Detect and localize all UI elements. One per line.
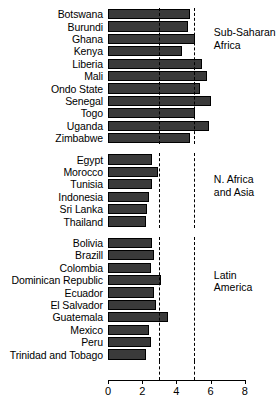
- chart-group-panel: BoliviaBrazillColombiaDominican Republic…: [0, 237, 278, 361]
- bar: [108, 167, 158, 177]
- bar: [108, 46, 182, 56]
- reference-line: [159, 153, 160, 227]
- bar-chart: BotswanaBurundiGhanaKenyaLiberiaMaliOndo…: [0, 0, 278, 405]
- axis-tick: [108, 380, 109, 384]
- bar-category-label: Morocco: [63, 166, 103, 177]
- bar-plot-area: [108, 120, 245, 132]
- bar-plot-area: [108, 249, 245, 261]
- group-annotation-line-2: and Asia: [214, 186, 254, 199]
- axis-tick-label: 2: [139, 385, 145, 397]
- group-annotation-label: LatinAmerica: [214, 269, 253, 294]
- chart-bar-row: Mali: [0, 70, 278, 82]
- bar-category-label: Bolivia: [73, 237, 103, 248]
- chart-bar-row: Bolivia: [0, 237, 278, 249]
- reference-line: [159, 361, 160, 380]
- bar: [108, 34, 195, 44]
- chart-bar-row: Sri Lanka: [0, 203, 278, 215]
- bar: [108, 349, 146, 359]
- bar-category-label: Uganda: [67, 120, 103, 131]
- axis-tick: [211, 380, 212, 384]
- axis-tick: [176, 380, 177, 384]
- bar-plot-area: [108, 237, 245, 249]
- bar-category-label: Botswana: [58, 9, 103, 20]
- bar-plot-area: [108, 299, 245, 311]
- chart-bar-row: Botswana: [0, 8, 278, 20]
- group-annotation-label: Sub-SaharanAfrica: [214, 26, 276, 51]
- bar-category-label: Guatemala: [53, 312, 103, 323]
- reference-line: [159, 237, 160, 361]
- chart-bar-row: Uganda: [0, 120, 278, 132]
- bar: [108, 337, 151, 347]
- chart-bar-row: Togo: [0, 107, 278, 119]
- reference-line: [194, 153, 195, 227]
- bar: [108, 179, 152, 189]
- bar-category-label: Mexico: [70, 324, 103, 335]
- bar-plot-area: [108, 348, 245, 360]
- bar: [108, 9, 190, 19]
- chart-bar-row: Brazill: [0, 249, 278, 261]
- bar-category-label: Kenya: [74, 46, 103, 57]
- bar-category-label: Ecuador: [65, 287, 103, 298]
- bar: [108, 154, 152, 164]
- axis-tick-label: 0: [105, 385, 111, 397]
- bar-category-label: Ghana: [72, 33, 103, 44]
- bar-category-label: Burundi: [68, 21, 104, 32]
- axis-tick-label: 4: [173, 385, 179, 397]
- bar: [108, 83, 200, 93]
- chart-bar-row: Guatemala: [0, 311, 278, 323]
- reference-line: [194, 361, 195, 380]
- chart-bar-row: Egypt: [0, 153, 278, 165]
- bar-category-label: El Salvador: [50, 299, 103, 310]
- bar: [108, 300, 156, 310]
- group-annotation-line-1: Latin: [214, 269, 253, 282]
- bar-category-label: Brazill: [75, 250, 103, 261]
- chart-bar-row: El Salvador: [0, 299, 278, 311]
- bar-plot-area: [108, 203, 245, 215]
- axis-tick-label: 8: [242, 385, 248, 397]
- chart-bar-row: Thailand: [0, 215, 278, 227]
- bar-category-label: Zimbabwe: [55, 133, 103, 144]
- chart-bar-row: Senegal: [0, 95, 278, 107]
- reference-line: [194, 8, 195, 144]
- bar-plot-area: [108, 336, 245, 348]
- bar-category-label: Egypt: [77, 154, 103, 165]
- bar-category-label: Sri Lanka: [60, 204, 103, 215]
- bar: [108, 71, 207, 81]
- bar-category-label: Liberia: [72, 58, 103, 69]
- bar-plot-area: [108, 8, 245, 20]
- bar: [108, 238, 152, 248]
- group-annotation-line-1: N. Africa: [214, 173, 254, 186]
- bar: [108, 108, 195, 118]
- group-annotation-label: N. Africaand Asia: [214, 173, 254, 198]
- bar-category-label: Trinidad and Tobago: [10, 349, 103, 360]
- group-annotation-line-2: Africa: [214, 39, 276, 52]
- bar-category-label: Mali: [84, 71, 103, 82]
- bar: [108, 263, 151, 273]
- bar-category-label: Togo: [81, 108, 103, 119]
- bar-plot-area: [108, 82, 245, 94]
- bar: [108, 287, 154, 297]
- group-annotation-line-2: America: [214, 281, 253, 294]
- bar-category-label: Indonesia: [58, 191, 103, 202]
- bar: [108, 216, 146, 226]
- bar-category-label: Senegal: [65, 95, 103, 106]
- bar-category-label: Colombia: [59, 262, 103, 273]
- chart-bar-row: Mexico: [0, 324, 278, 336]
- bar-plot-area: [108, 132, 245, 144]
- chart-bar-row: Trinidad and Tobago: [0, 348, 278, 360]
- bar-category-label: Thailand: [64, 216, 103, 227]
- chart-bar-row: Zimbabwe: [0, 132, 278, 144]
- axis-tick: [142, 380, 143, 384]
- bar-plot-area: [108, 324, 245, 336]
- bar-plot-area: [108, 153, 245, 165]
- bar-category-label: Dominican Republic: [11, 275, 103, 286]
- chart-bar-row: Peru: [0, 336, 278, 348]
- bar-plot-area: [108, 58, 245, 70]
- bar-plot-area: [108, 107, 245, 119]
- bar: [108, 250, 154, 260]
- x-axis: 02468: [0, 380, 278, 405]
- bar-category-label: Tunisia: [70, 179, 103, 190]
- bar-category-label: Peru: [81, 337, 103, 348]
- bar: [108, 192, 149, 202]
- bar: [108, 204, 147, 214]
